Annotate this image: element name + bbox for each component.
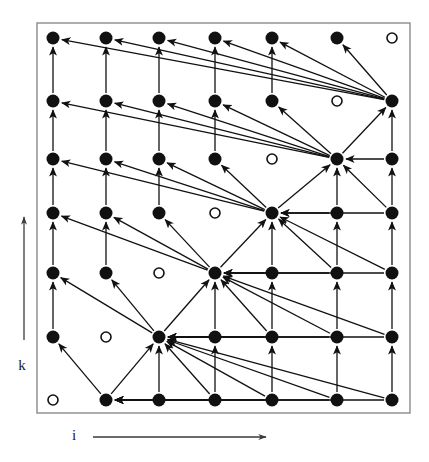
iteration-node-filled (331, 394, 344, 407)
hub-fanout-arrow-left (114, 217, 208, 269)
hub-fanout-arrow-left (62, 40, 384, 100)
iteration-node-filled (266, 95, 279, 108)
iteration-node-filled (153, 207, 166, 220)
hub-fanout-arrow-left (62, 103, 329, 158)
iteration-node-filled (209, 267, 222, 280)
iteration-node-filled (47, 32, 60, 45)
grid-nodes (47, 32, 399, 407)
iteration-node-filled (153, 32, 166, 45)
hub-fanin-arrow-lower-right (223, 276, 384, 334)
hub-fanout-arrow-left (115, 162, 265, 211)
iteration-node-filled (386, 267, 399, 280)
i-axis-label: i (72, 427, 76, 443)
hub-chain-arrow (221, 220, 266, 268)
iteration-node-filled (209, 95, 222, 108)
iteration-node-filled (153, 331, 166, 344)
iteration-node-filled (100, 267, 113, 280)
hub-fanin-arrow-lower-right (223, 277, 330, 333)
iteration-node-open (48, 395, 58, 405)
hub-fanout-arrow-left (115, 40, 384, 99)
iteration-node-filled (331, 32, 344, 45)
iteration-node-filled (47, 207, 60, 220)
iteration-node-filled (47, 95, 60, 108)
hub-chain-arrow (343, 108, 386, 154)
iteration-node-filled (386, 331, 399, 344)
hub-fanout-arrow-left (165, 220, 209, 268)
iteration-node-filled (386, 207, 399, 220)
iteration-node-open (267, 154, 277, 164)
hub-chain-arrow (278, 165, 330, 208)
iteration-node-filled (331, 153, 344, 166)
iteration-node-filled (100, 153, 113, 166)
iteration-node-open (101, 332, 111, 342)
iteration-node-filled (100, 95, 113, 108)
hub-chain-arrow (164, 280, 209, 331)
horizontal-axis: i (72, 427, 266, 443)
iteration-node-filled (153, 153, 166, 166)
iteration-node-filled (266, 32, 279, 45)
iteration-node-filled (386, 153, 399, 166)
iteration-node-filled (209, 331, 222, 344)
iteration-node-filled (331, 331, 344, 344)
diagram-canvas: k i (0, 0, 429, 462)
iteration-node-filled (331, 267, 344, 280)
iteration-node-filled (266, 267, 279, 280)
iteration-node-filled (47, 267, 60, 280)
hub-fanout-arrow-left (223, 105, 330, 156)
iteration-node-filled (386, 95, 399, 108)
hub-fanout-arrow-left (62, 161, 264, 211)
iteration-node-filled (331, 207, 344, 220)
iteration-node-filled (266, 394, 279, 407)
dependence-edges (53, 40, 392, 400)
iteration-node-filled (100, 32, 113, 45)
hub-chain-arrow (111, 344, 153, 394)
iteration-node-filled (47, 331, 60, 344)
hub-fanin-arrow-lower-right (280, 217, 385, 269)
iteration-node-filled (266, 207, 279, 220)
iteration-space-dependence-graph: k i (0, 0, 429, 462)
k-axis-label: k (18, 357, 26, 373)
hub-fanout-arrow-left (168, 40, 385, 99)
hub-fanin-arrow-lower-right (279, 219, 332, 267)
iteration-node-filled (153, 394, 166, 407)
iteration-node-filled (386, 394, 399, 407)
hub-fanout-arrow-left (61, 278, 152, 333)
iteration-node-open (332, 96, 342, 106)
iteration-node-filled (100, 207, 113, 220)
iteration-node-filled (266, 331, 279, 344)
iteration-node-filled (153, 95, 166, 108)
iteration-node-filled (100, 394, 113, 407)
hub-fanin-arrow-lower-right (167, 340, 329, 397)
hub-fanout-arrow-left (115, 103, 330, 157)
hub-fanout-arrow-left (280, 42, 385, 97)
iteration-node-open (154, 268, 164, 278)
hub-fanin-arrow-lower-right (343, 165, 386, 207)
vertical-axis: k (18, 217, 26, 373)
iteration-node-open (210, 208, 220, 218)
hub-fanout-arrow-left (222, 165, 267, 207)
iteration-node-filled (209, 153, 222, 166)
hub-fanin-arrow-lower-right (165, 344, 210, 394)
hub-fanin-arrow-lower-right (168, 339, 385, 398)
iteration-node-filled (209, 32, 222, 45)
iteration-node-open (387, 33, 397, 43)
iteration-node-filled (209, 394, 222, 407)
hub-fanout-arrow-left (112, 280, 154, 331)
hub-fanout-arrow-left (167, 163, 265, 210)
iteration-node-filled (47, 153, 60, 166)
hub-fanout-arrow-left (59, 344, 101, 394)
hub-fanout-arrow-left (61, 216, 207, 270)
